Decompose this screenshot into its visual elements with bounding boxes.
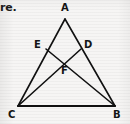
segment-side-AB: [65, 19, 115, 106]
segment-side-AC: [18, 19, 65, 106]
segment-cevian-BE: [46, 49, 115, 106]
segment-cevian-CD: [18, 49, 81, 106]
figure-page: re. A E D F C B: [0, 0, 130, 124]
geometry-figure: [0, 0, 130, 124]
caption-text-fragment: re.: [0, 1, 16, 14]
vertex-label-c: C: [8, 110, 15, 120]
vertex-label-b: B: [113, 110, 121, 120]
vertex-label-e: E: [34, 40, 41, 50]
vertex-label-f: F: [61, 66, 68, 76]
vertex-label-d: D: [84, 40, 92, 50]
vertex-label-a: A: [61, 3, 69, 13]
